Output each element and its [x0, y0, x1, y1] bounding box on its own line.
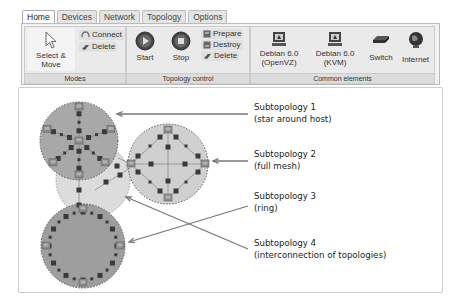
mesh-interface-node[interactable]	[185, 145, 188, 148]
ring-interface-node[interactable]	[90, 212, 93, 215]
ring-interface-node[interactable]	[114, 253, 117, 256]
ring-host-node[interactable]	[79, 279, 87, 286]
star-interface-node[interactable]	[69, 145, 74, 150]
star-center-host[interactable]	[75, 137, 83, 144]
star-host-node[interactable]	[107, 125, 115, 132]
ring-interface-node[interactable]	[114, 236, 117, 239]
ring-interface-node[interactable]	[49, 236, 52, 239]
ring-interface-node[interactable]	[64, 214, 69, 219]
star-interface-node[interactable]	[77, 166, 82, 171]
mesh-interface-node[interactable]	[166, 179, 171, 184]
star-interface-node[interactable]	[77, 128, 82, 133]
ring-interface-node[interactable]	[49, 253, 52, 256]
annotation-subtopology-1: Subtopology 1 (star around host)	[254, 102, 332, 125]
star-interface-node[interactable]	[77, 149, 82, 154]
annotation-desc: (interconnection of topologies)	[254, 250, 386, 262]
mesh-interface-node[interactable]	[174, 135, 179, 140]
mesh-interface-node[interactable]	[149, 162, 154, 167]
star-host-node[interactable]	[75, 103, 83, 110]
mesh-host-node[interactable]	[201, 160, 209, 167]
ring-interface-node[interactable]	[73, 212, 76, 215]
ring-interface-node[interactable]	[73, 277, 76, 280]
star-interface-node[interactable]	[86, 135, 91, 140]
mesh-host-node[interactable]	[164, 126, 172, 133]
star-interface-node[interactable]	[77, 111, 82, 116]
annotation-desc: (star around host)	[254, 114, 332, 126]
annotation-title: Subtopology 4	[254, 238, 386, 250]
mesh-host-node[interactable]	[127, 160, 135, 167]
star-interface-node[interactable]	[63, 152, 66, 155]
star-interface-node[interactable]	[84, 145, 89, 150]
mesh-interface-node[interactable]	[183, 162, 188, 167]
ring-interface-node[interactable]	[57, 269, 60, 272]
mesh-interface-node[interactable]	[158, 135, 163, 140]
ring-interface-node[interactable]	[98, 214, 103, 219]
ring-interface-node[interactable]	[51, 261, 56, 266]
ring-interface-node[interactable]	[110, 261, 115, 266]
mesh-interface-node[interactable]	[174, 189, 179, 194]
mesh-interface-node[interactable]	[166, 145, 171, 150]
star-host-node[interactable]	[101, 159, 109, 166]
star-interface-node[interactable]	[78, 121, 81, 124]
topology-diagram[interactable]	[0, 0, 458, 305]
ring-host-node[interactable]	[79, 205, 87, 212]
ring-interface-node[interactable]	[51, 227, 56, 232]
ring-interface-node[interactable]	[90, 277, 93, 280]
annotation-desc: (ring)	[254, 203, 316, 215]
annotation-subtopology-2: Subtopology 2 (full mesh)	[254, 149, 316, 172]
ring-interface-node[interactable]	[98, 273, 103, 278]
annotation-title: Subtopology 1	[254, 102, 332, 114]
star-interface-node[interactable]	[51, 129, 56, 134]
annotation-title: Subtopology 3	[254, 191, 316, 203]
ring-interface-node[interactable]	[110, 227, 115, 232]
ring-interface-node[interactable]	[57, 220, 60, 223]
star-interface-node[interactable]	[60, 133, 63, 136]
annotation-subtopology-4: Subtopology 4 (interconnection of topolo…	[254, 238, 386, 261]
subtopology-ring-area	[41, 204, 125, 288]
star-host-node[interactable]	[75, 171, 83, 178]
ring-interface-node[interactable]	[64, 273, 69, 278]
star-interface-node[interactable]	[67, 135, 72, 140]
annotation-desc: (full mesh)	[254, 161, 316, 173]
annotation-subtopology-3: Subtopology 3 (ring)	[254, 191, 316, 214]
ring-host-node[interactable]	[42, 242, 50, 249]
mesh-interface-node[interactable]	[158, 189, 163, 194]
interconnect-interface-node[interactable]	[104, 180, 109, 185]
mesh-host-node[interactable]	[164, 194, 172, 201]
star-interface-node[interactable]	[92, 152, 95, 155]
mesh-interface-node[interactable]	[196, 170, 201, 175]
annotation-title: Subtopology 2	[254, 149, 316, 161]
ring-host-node[interactable]	[116, 242, 124, 249]
mesh-interface-node[interactable]	[185, 181, 188, 184]
mesh-interface-node[interactable]	[149, 181, 152, 184]
star-interface-node[interactable]	[95, 133, 98, 136]
ring-interface-node[interactable]	[106, 269, 109, 272]
star-host-node[interactable]	[49, 159, 57, 166]
ring-interface-node[interactable]	[106, 220, 109, 223]
mesh-interface-node[interactable]	[149, 145, 152, 148]
mesh-interface-node[interactable]	[136, 154, 141, 159]
interconnect-interface-node[interactable]	[118, 173, 123, 178]
star-interface-node[interactable]	[102, 129, 107, 134]
mesh-interface-node[interactable]	[196, 154, 201, 159]
star-interface-node[interactable]	[78, 158, 81, 161]
interconnect-interface-node[interactable]	[115, 164, 120, 169]
mesh-interface-node[interactable]	[136, 170, 141, 175]
interconnect-interface-node[interactable]	[77, 188, 82, 193]
star-host-node[interactable]	[43, 125, 51, 132]
annotation-arrow-line	[126, 197, 248, 249]
